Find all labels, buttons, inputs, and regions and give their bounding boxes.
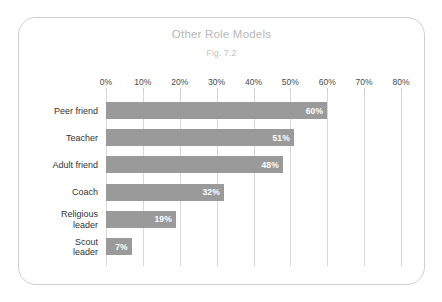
category-label: Peer friend: [54, 105, 98, 116]
bar-value-label: 60%: [306, 106, 328, 116]
x-tick-label: 40%: [245, 77, 262, 87]
tick-mark: [364, 88, 365, 92]
x-tick-label: 10%: [134, 77, 151, 87]
bar-value-label: 51%: [272, 133, 294, 143]
x-tick-label: 50%: [282, 77, 299, 87]
bar: 60%: [106, 102, 327, 119]
x-tick-label: 60%: [319, 77, 336, 87]
figure-caption: Fig. 7.2: [19, 48, 424, 58]
bar: 48%: [106, 156, 283, 173]
bar: 7%: [106, 238, 132, 255]
tick-mark: [401, 88, 402, 92]
x-tick-label: 70%: [356, 77, 373, 87]
bar-row: Religiousleader19%: [106, 211, 401, 228]
bar: 51%: [106, 129, 294, 146]
x-tick-label: 80%: [392, 77, 409, 87]
category-label: Religiousleader: [61, 209, 98, 230]
tick-mark: [290, 88, 291, 92]
gridline: [401, 92, 402, 266]
tick-mark: [180, 88, 181, 92]
tick-mark: [106, 88, 107, 92]
plot-area: 0%10%20%30%40%50%60%70%80% Peer friend60…: [106, 92, 401, 266]
bar-value-label: 32%: [202, 187, 224, 197]
tick-mark: [217, 88, 218, 92]
bar-value-label: 7%: [115, 242, 132, 252]
bar: 32%: [106, 184, 224, 201]
bar-row: Adult friend48%: [106, 156, 401, 173]
bar-row: Teacher51%: [106, 129, 401, 146]
bar-row: Peer friend60%: [106, 102, 401, 119]
bar-value-label: 48%: [261, 160, 283, 170]
bar: 19%: [106, 211, 176, 228]
category-label: Adult friend: [52, 160, 98, 171]
tick-mark: [327, 88, 328, 92]
x-tick-label: 20%: [171, 77, 188, 87]
category-label: Coach: [72, 187, 98, 198]
tick-mark: [143, 88, 144, 92]
x-tick-label: 0%: [100, 77, 112, 87]
x-tick-label: 30%: [208, 77, 225, 87]
bar-value-label: 19%: [154, 214, 176, 224]
page-title: Other Role Models: [19, 28, 424, 40]
category-label: Teacher: [66, 132, 98, 143]
bar-row: Scoutleader7%: [106, 238, 401, 255]
bar-row: Coach32%: [106, 184, 401, 201]
chart-card: Other Role Models Fig. 7.2 0%10%20%30%40…: [18, 17, 425, 285]
tick-mark: [254, 88, 255, 92]
category-label: Scoutleader: [73, 236, 98, 257]
